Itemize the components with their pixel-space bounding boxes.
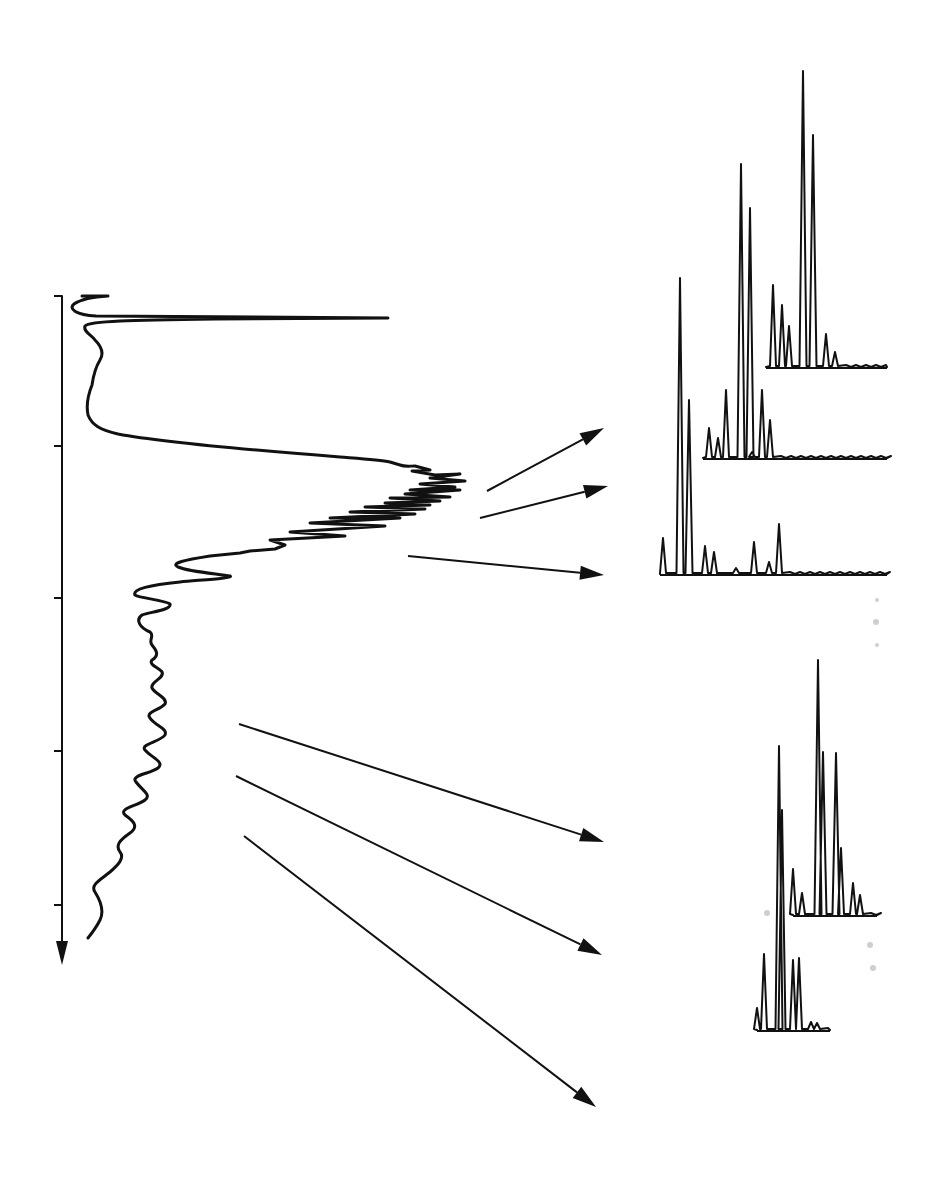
- arrowhead-icon: [573, 1087, 596, 1107]
- spectrum-trace: [790, 660, 881, 915]
- arrow-spectrum-top-1: [487, 428, 604, 491]
- arrow-spectrum-bottom-2: [236, 776, 602, 955]
- time-axis: [54, 296, 68, 965]
- arrowhead-icon: [583, 485, 608, 499]
- spectrum-trace: [703, 164, 891, 458]
- arrowhead-icon: [579, 566, 604, 580]
- arrow-spectrum-top-2: [480, 485, 608, 518]
- axis-ticks: [54, 296, 62, 905]
- mass-spectra: [660, 71, 891, 1031]
- arrow-spectrum-bottom-1: [239, 724, 604, 842]
- arrowhead-icon: [579, 828, 604, 842]
- arrows: [236, 428, 608, 1107]
- arrowhead-icon: [577, 938, 602, 955]
- chromatogram-figure: [0, 0, 927, 1177]
- spectrum-bottom-1: [790, 660, 881, 916]
- spectrum-trace: [766, 71, 887, 367]
- spectrum-top-2: [703, 164, 891, 459]
- axis-arrowhead-icon: [56, 941, 68, 965]
- arrow-spectrum-bottom-3: [244, 836, 596, 1107]
- spectrum-top-1: [766, 71, 887, 368]
- arrow-spectrum-top-3: [408, 556, 604, 580]
- arrowhead-icon: [580, 428, 604, 446]
- chromatogram-trace: [72, 296, 465, 938]
